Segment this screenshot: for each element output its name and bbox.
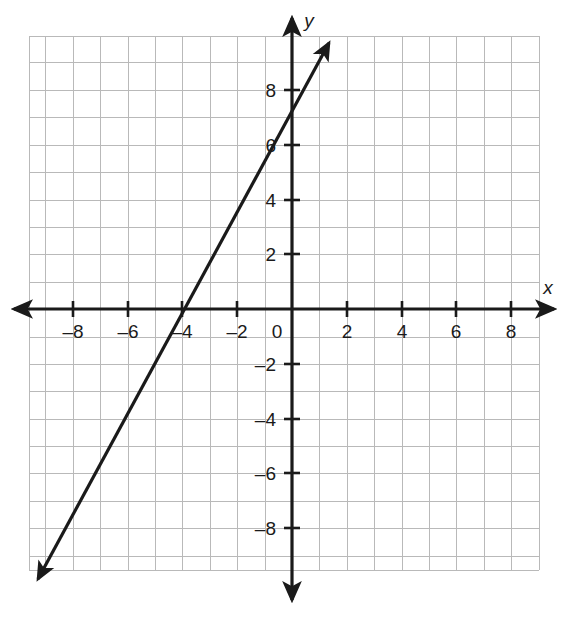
x-tick-label-2: 2 (342, 321, 353, 342)
y-tick-label-6: 6 (265, 135, 276, 156)
x-tick-label-6: 6 (451, 321, 462, 342)
coordinate-plane-svg: –8 –6 –4 –2 0 2 4 6 8 8 6 4 2 –2 –4 –6 –… (0, 0, 568, 617)
origin-label: 0 (272, 321, 283, 342)
y-tick-label-4: 4 (265, 190, 276, 211)
x-tick-label-neg6: –6 (117, 321, 138, 342)
y-tick-label-8: 8 (265, 80, 276, 101)
y-tick-label-neg6: –6 (255, 463, 276, 484)
y-axis-label: y (302, 10, 315, 31)
y-tick-label-2: 2 (265, 244, 276, 265)
y-tick-label-neg2: –2 (255, 354, 276, 375)
x-tick-label-neg8: –8 (62, 321, 83, 342)
x-tick-label-neg2: –2 (226, 321, 247, 342)
x-tick-label-neg4: –4 (171, 321, 193, 342)
x-tick-label-8: 8 (506, 321, 517, 342)
x-tick-label-4: 4 (397, 321, 408, 342)
x-axis-label: x (542, 277, 554, 298)
y-tick-label-neg4: –4 (255, 409, 277, 430)
graph-figure: –8 –6 –4 –2 0 2 4 6 8 8 6 4 2 –2 –4 –6 –… (0, 0, 568, 617)
y-tick-label-neg8: –8 (255, 518, 276, 539)
